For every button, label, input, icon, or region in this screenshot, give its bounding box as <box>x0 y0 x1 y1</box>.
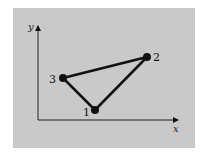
point-3 <box>59 74 67 82</box>
triangle <box>63 57 147 110</box>
triangle-diagram: y x 1 2 3 <box>0 0 204 153</box>
point-2-label: 2 <box>153 51 160 64</box>
point-1 <box>91 106 99 114</box>
y-axis-label: y <box>27 21 34 32</box>
point-1-label: 1 <box>83 106 90 119</box>
point-3-label: 3 <box>49 73 56 86</box>
x-axis-label: x <box>173 123 179 134</box>
point-2 <box>143 53 151 61</box>
